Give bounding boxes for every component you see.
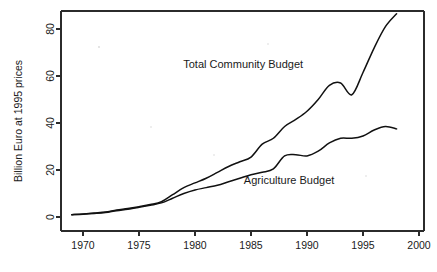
- x-tick-label: 1990: [295, 239, 319, 251]
- x-tick-label: 1970: [71, 239, 95, 251]
- x-tick-label: 1995: [351, 239, 375, 251]
- series-annotation-agriculture-budget: Agriculture Budget: [244, 174, 335, 186]
- series-annotation-total-community-budget: Total Community Budget: [183, 58, 303, 70]
- y-tick-label: 0: [44, 214, 56, 220]
- y-axis-title: Billion Euro at 1995 prices: [12, 60, 24, 182]
- chart-figure: 020406080 1970197519801985199019952000 T…: [0, 0, 437, 272]
- x-tick-label: 1985: [239, 239, 263, 251]
- y-tick-label: 80: [44, 23, 56, 35]
- y-tick-label: 60: [44, 70, 56, 82]
- x-tick-label: 1980: [183, 239, 207, 251]
- y-tick-label: 40: [44, 117, 56, 129]
- x-tick-label: 1975: [127, 239, 151, 251]
- y-tick-label: 20: [44, 164, 56, 176]
- x-tick-label: 2000: [407, 239, 431, 251]
- budget-line-chart: 020406080 1970197519801985199019952000 T…: [0, 0, 437, 272]
